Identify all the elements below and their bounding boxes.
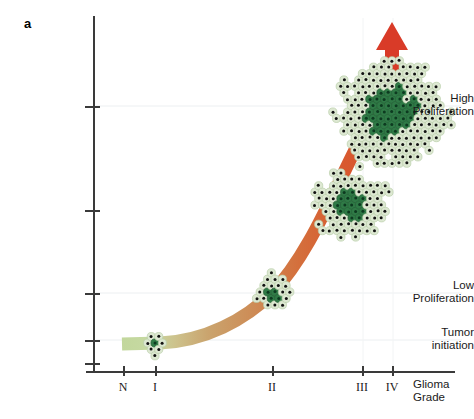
growth-arrow (376, 22, 408, 84)
x-axis-tick (155, 366, 157, 376)
cluster-mid (311, 162, 393, 241)
y-axis-line (93, 16, 95, 373)
x-axis-line (86, 371, 455, 373)
x-axis-tick-label: II (252, 380, 292, 395)
x-axis-tick (272, 366, 274, 376)
progression-graphic (0, 0, 474, 419)
x-axis-tick (392, 366, 394, 376)
y-axis-tick-label: Tumorinitiation (390, 326, 474, 352)
y-axis-tick (85, 363, 100, 365)
y-axis-tick-label-line2: Proliferation (390, 105, 474, 118)
x-axis-title: Glioma Grade (413, 378, 449, 404)
y-axis-tick-label-line2: initiation (390, 339, 474, 352)
x-axis-title-line1: Glioma (413, 378, 449, 391)
cluster-initiation (144, 332, 167, 359)
y-axis-tick-label-line1: Low (390, 279, 474, 292)
x-axis-tick (123, 366, 125, 376)
y-axis-tick-label-line2: Proliferation (390, 292, 474, 305)
y-axis-tick-label: HighProliferation (390, 92, 474, 118)
x-axis-tick (362, 366, 364, 376)
y-axis-tick (85, 293, 100, 295)
x-axis-title-line2: Grade (413, 391, 449, 404)
panel-label: a (24, 16, 31, 31)
y-axis-tick (85, 106, 100, 108)
glioma-progression-figure: a Hi (0, 0, 474, 419)
y-axis-tick (85, 210, 100, 212)
y-axis-tick (85, 340, 100, 342)
y-axis-tick-label: LowProliferation (390, 279, 474, 305)
x-axis-tick-label: I (135, 380, 175, 395)
y-axis-tick-label-line1: High (390, 92, 474, 105)
cluster-low (252, 269, 294, 309)
x-axis-tick-label: IV (372, 380, 412, 395)
y-axis-tick-label-line1: Tumor (390, 326, 474, 339)
